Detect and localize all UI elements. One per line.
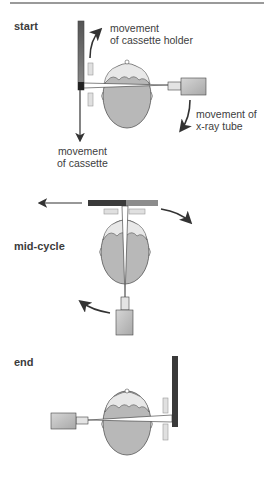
arrow-cassette-holder-icon xyxy=(90,30,100,58)
collimator-slit xyxy=(88,63,93,75)
cassette-holder xyxy=(126,200,158,206)
collimator-slit xyxy=(88,93,93,106)
cassette xyxy=(88,200,126,206)
arrow-xray-tube-icon xyxy=(81,302,110,313)
xray-tube xyxy=(116,310,133,335)
xray-tube-nozzle xyxy=(76,417,88,424)
collimator-slit xyxy=(163,398,168,413)
arrow-cassette-holder-icon xyxy=(161,209,190,222)
arrow-xray-tube-icon xyxy=(181,100,190,130)
collimator-slit xyxy=(129,209,145,214)
patient-head xyxy=(102,60,153,128)
cassette-holder xyxy=(78,21,84,90)
xray-tube-nozzle xyxy=(121,297,129,310)
stage-end-diagram xyxy=(51,356,178,455)
collimator-slit xyxy=(104,209,118,214)
xray-tube xyxy=(181,78,206,95)
xray-tube-nozzle xyxy=(168,82,181,90)
cassette-holder xyxy=(172,356,178,427)
collimator-slit xyxy=(163,424,168,440)
patient-head xyxy=(102,389,153,455)
xray-tube xyxy=(51,413,76,429)
stage-start-diagram xyxy=(78,21,206,140)
cassette xyxy=(78,82,84,90)
diagram-canvas xyxy=(0,0,264,480)
stage-mid-diagram xyxy=(40,200,190,335)
